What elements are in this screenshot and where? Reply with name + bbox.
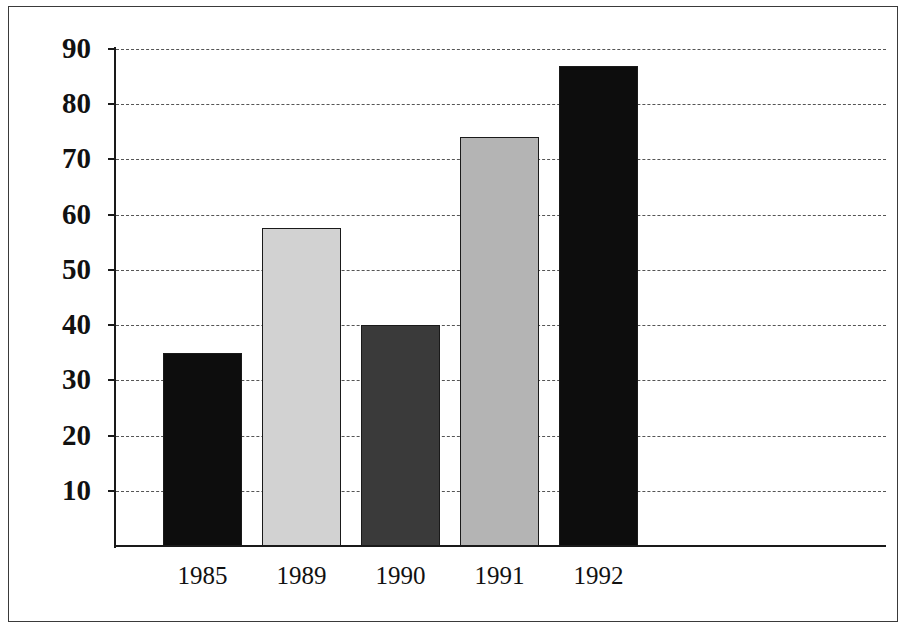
y-tick-mark-70 — [108, 158, 116, 160]
y-tick-label-30: 30 — [21, 365, 91, 394]
y-tick-label-80: 80 — [21, 89, 91, 118]
y-tick-mark-40 — [108, 324, 116, 326]
plot-area — [116, 49, 886, 546]
y-tick-mark-90 — [108, 48, 116, 50]
bar-1990[interactable] — [361, 325, 440, 546]
y-tick-label-50: 50 — [21, 255, 91, 284]
bar-1985[interactable] — [163, 353, 242, 546]
bar-1991[interactable] — [460, 137, 539, 546]
y-tick-label-90: 90 — [21, 34, 91, 63]
y-tick-label-20: 20 — [21, 421, 91, 450]
y-tick-mark-50 — [108, 269, 116, 271]
y-tick-label-60: 60 — [21, 200, 91, 229]
y-tick-mark-60 — [108, 214, 116, 216]
bar-1989[interactable] — [262, 228, 341, 546]
y-tick-mark-30 — [108, 379, 116, 381]
bar-chart-figure: 102030405060708090 19851989199019911992 — [0, 0, 910, 632]
y-tick-mark-80 — [108, 103, 116, 105]
x-tick-label-1992: 1992 — [539, 562, 659, 590]
y-tick-mark-20 — [108, 435, 116, 437]
y-tick-label-70: 70 — [21, 144, 91, 173]
y-tick-label-40: 40 — [21, 310, 91, 339]
y-tick-label-10: 10 — [21, 476, 91, 505]
y-tick-mark-10 — [108, 490, 116, 492]
bar-1992[interactable] — [559, 66, 638, 546]
